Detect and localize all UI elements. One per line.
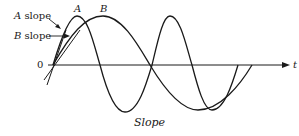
b-slope-label: B slope — [13, 30, 51, 41]
axis-arrow-icon — [282, 62, 290, 68]
curve-b-label: B — [99, 3, 107, 14]
origin-label: 0 — [37, 59, 43, 70]
curve-a — [53, 16, 238, 112]
diagram-caption: Slope — [0, 116, 299, 129]
b-slope-arrow-icon — [64, 34, 70, 39]
a-slope-label: A slope — [13, 10, 51, 21]
time-axis-label: t — [293, 59, 298, 70]
curve-a-label: A — [73, 3, 81, 14]
